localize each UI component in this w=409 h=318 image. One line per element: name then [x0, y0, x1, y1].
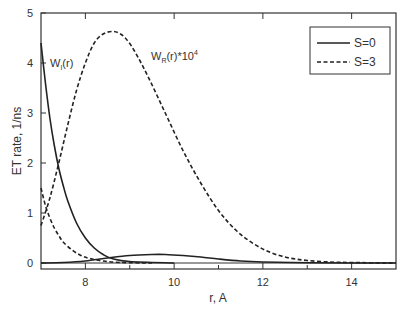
y-tick-label: 4 — [27, 57, 33, 69]
x-tick-label: 12 — [257, 276, 269, 288]
solid-curve — [41, 254, 396, 263]
et-rate-chart: 8101214012345 WI(r) WR(r)*104 S=0 S=3 r,… — [0, 0, 409, 318]
legend-label-s3: S=3 — [354, 55, 376, 69]
x-tick-label: 8 — [82, 276, 88, 288]
annotation-wr: WR(r)*104 — [151, 49, 198, 64]
dashed-curve — [41, 188, 152, 263]
y-tick-label: 2 — [27, 157, 33, 169]
legend-box — [310, 27, 390, 74]
x-axis-label: r, A — [209, 291, 226, 305]
legend: S=0 S=3 — [310, 27, 390, 74]
x-tick-label: 14 — [346, 276, 358, 288]
y-axis-label: ET rate, 1/ns — [10, 107, 24, 175]
y-tick-label: 5 — [27, 7, 33, 19]
y-tick-label: 0 — [27, 257, 33, 269]
legend-label-s0: S=0 — [354, 36, 376, 50]
y-tick-label: 3 — [27, 107, 33, 119]
y-tick-label: 1 — [27, 207, 33, 219]
x-tick-label: 10 — [168, 276, 180, 288]
annotation-wi: WI(r) — [50, 57, 73, 71]
